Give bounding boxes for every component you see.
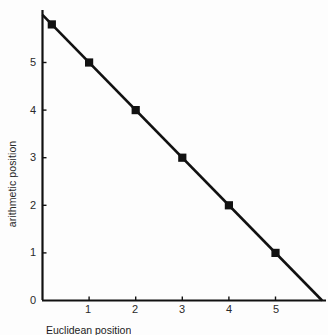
y-tick-label-1: 1 [22,246,36,258]
y-tick-label-5: 5 [22,56,36,68]
y-tick-label-3: 3 [22,151,36,163]
chart-figure: arithmetic position 0 1 2 3 4 5 1 2 3 4 … [0,0,328,335]
data-point-marker [178,154,186,162]
data-point-marker [225,201,233,209]
axis-ticks [43,63,276,301]
x-tick-label-4: 4 [221,303,237,315]
data-point-marker [48,20,56,28]
data-point-marker [85,58,93,66]
x-tick-label-2: 2 [127,303,143,315]
data-point-marker [132,106,140,114]
figure-caption: Euclidean position [46,324,131,335]
x-tick-label-5: 5 [268,303,284,315]
data-point-marker [271,249,279,257]
x-tick-label-1: 1 [80,303,96,315]
y-tick-label-2: 2 [22,199,36,211]
plot-area [0,0,328,335]
x-tick-label-3: 3 [174,303,190,315]
y-tick-label-0: 0 [22,294,36,306]
y-tick-label-4: 4 [22,104,36,116]
